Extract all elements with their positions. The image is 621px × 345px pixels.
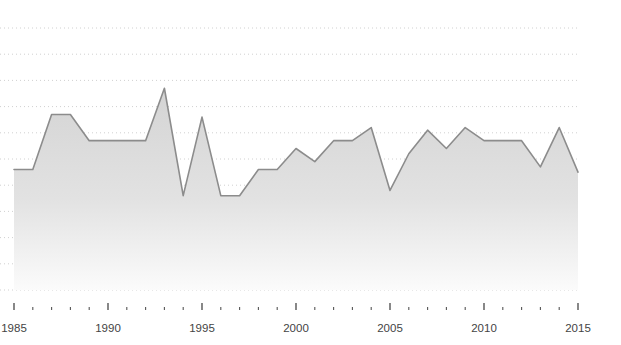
x-axis-ticks <box>14 303 578 310</box>
x-axis-label-1990: 1990 <box>95 322 121 334</box>
area-chart: 1985199019952000200520102015 <box>0 0 621 345</box>
x-axis-label-2015: 2015 <box>565 322 591 334</box>
x-axis-tick-labels: 1985199019952000200520102015 <box>1 322 591 334</box>
area-series <box>14 88 578 290</box>
chart-container: 1985199019952000200520102015 <box>0 0 621 345</box>
x-axis-label-1985: 1985 <box>1 322 27 334</box>
x-axis-label-2005: 2005 <box>377 322 403 334</box>
x-axis-label-2010: 2010 <box>471 322 497 334</box>
x-axis-label-2000: 2000 <box>283 322 309 334</box>
area-fill <box>14 88 578 290</box>
x-axis-label-1995: 1995 <box>189 322 215 334</box>
